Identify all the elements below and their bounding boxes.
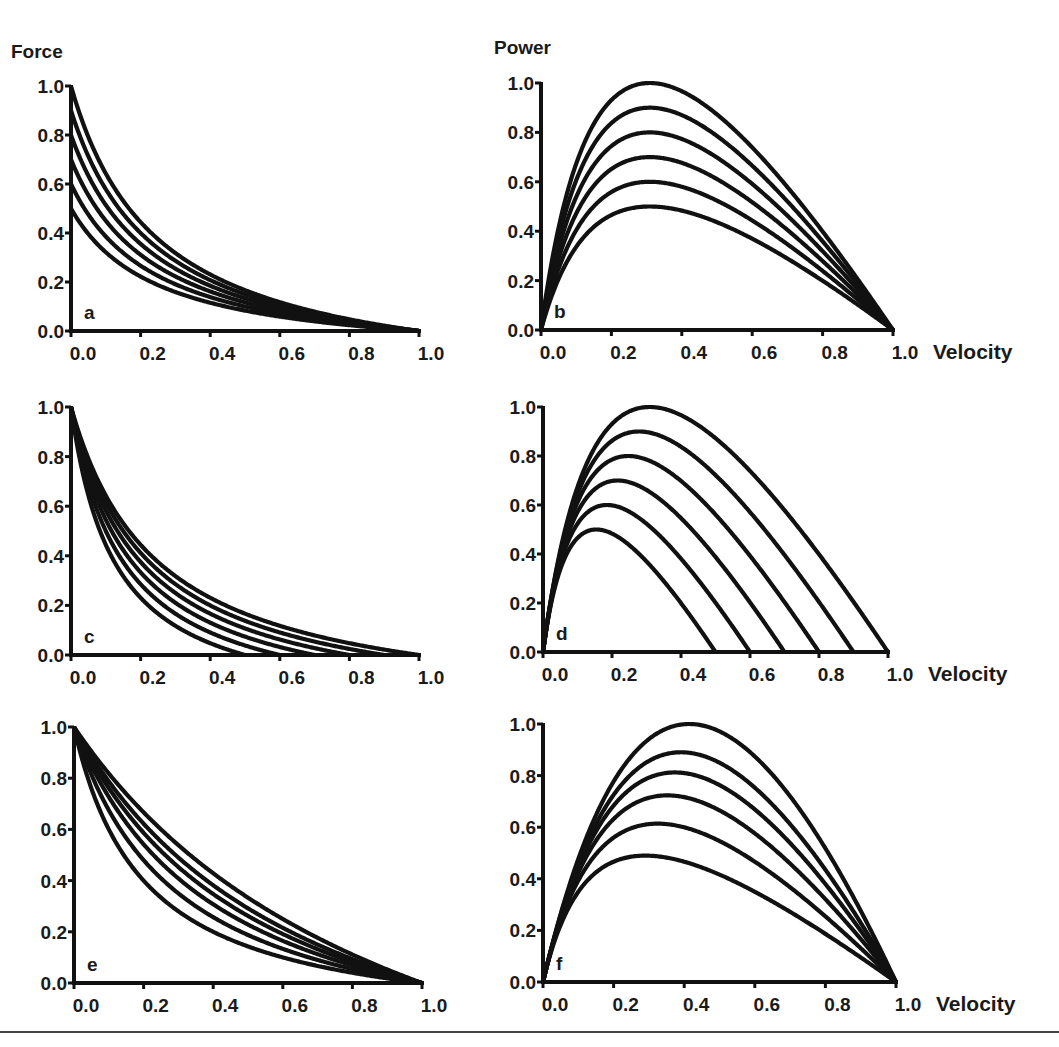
y-tick-label: 0.0 [510,972,536,993]
y-tick-label: 0.6 [38,496,64,517]
curve-vmax-0-6 [71,407,280,655]
panel-letter: a [84,302,95,323]
curve-vmax-0-8 [543,456,819,652]
x-tick-label: 0.4 [683,994,710,1015]
x-tick-label: 0.0 [542,664,568,685]
panel-letter: f [556,953,563,974]
y-tick-label: 0.8 [38,447,64,468]
y-tick-label: 1.0 [41,717,67,738]
curve-vmax-0-5 [543,530,716,653]
x-tick-label: 0.2 [611,664,637,685]
curve-k-0-2 [74,727,422,983]
y-tick-label: 0.4 [38,223,65,244]
x-tick-label: 0.0 [73,995,99,1016]
x-tick-label: 0.6 [749,664,775,685]
y-tick-label: 0.0 [41,973,67,994]
curve-f0-0-8 [541,132,893,330]
y-tick-label: 0.4 [508,221,535,242]
x-tick-label: 0.2 [612,994,638,1015]
panel-a-force-chart: 0.00.20.40.60.81.00.00.20.40.60.81.0a [38,76,445,364]
y-tick-label: 0.4 [510,544,537,565]
x-tick-label: 0.6 [279,667,305,688]
x-tick-label: 0.2 [610,342,636,363]
panel-letter: e [87,954,98,975]
x-tick-label: 1.0 [418,667,444,688]
x-tick-label: 1.0 [418,343,444,364]
x-tick-label: 0.8 [821,342,847,363]
x-tick-label: 0.4 [209,343,236,364]
y-tick-label: 0.8 [41,768,67,789]
y-tick-label: 0.6 [508,172,534,193]
y-tick-label: 0.2 [508,271,534,292]
y-tick-label: 0.0 [38,645,64,666]
y-tick-label: 0.6 [510,817,536,838]
panel-d-power-chart: 0.00.20.40.60.81.00.00.20.40.60.81.0Velo… [510,397,1008,685]
x-tick-label: 0.0 [70,343,96,364]
axes: 0.00.20.40.60.81.00.00.20.40.60.81.0a [38,76,445,364]
x-tick-label: 1.0 [887,664,913,685]
x-axis-title: Velocity [933,340,1013,363]
x-tick-label: 0.8 [824,994,850,1015]
y-tick-label: 0.6 [41,819,67,840]
x-tick-label: 0.8 [348,343,374,364]
panel-c-force-chart: 0.00.20.40.60.81.00.00.20.40.60.81.0c [38,397,445,688]
x-tick-label: 0.6 [754,994,780,1015]
power-axis-title: Power [494,37,552,58]
y-tick-label: 1.0 [38,397,64,418]
curve-f0-0-7 [541,157,893,330]
x-tick-label: 0.4 [209,667,236,688]
y-tick-label: 0.2 [510,593,536,614]
y-tick-label: 1.0 [508,73,534,94]
curve-vmax-0-6 [543,505,750,652]
curves [543,724,896,982]
x-tick-label: 1.0 [895,994,921,1015]
x-tick-label: 0.4 [212,995,239,1016]
x-tick-label: 0.8 [351,995,377,1016]
y-tick-label: 1.0 [510,714,536,735]
x-tick-label: 0.2 [139,667,165,688]
curves [71,86,419,331]
y-tick-label: 0.6 [38,174,64,195]
curves [543,407,888,652]
y-tick-label: 0.8 [508,122,534,143]
y-tick-label: 0.2 [38,272,64,293]
panel-letter: d [556,623,568,644]
y-tick-label: 0.0 [38,321,64,342]
y-tick-label: 1.0 [38,76,64,97]
y-tick-label: 0.4 [38,546,65,567]
y-tick-label: 0.2 [41,922,67,943]
caption-divider [0,1031,1059,1033]
x-tick-label: 0.6 [279,343,305,364]
curve-vmax-0-7 [543,481,785,653]
curve-k-0-3 [543,824,896,982]
force-axis-title: Force [11,41,63,62]
x-tick-label: 0.4 [680,664,707,685]
panel-letter: b [554,301,566,322]
x-tick-label: 1.0 [421,995,447,1016]
x-tick-label: 0.4 [681,342,708,363]
x-tick-label: 0.6 [282,995,308,1016]
y-tick-label: 0.2 [510,920,536,941]
y-tick-label: 0.0 [508,320,534,341]
y-tick-label: 0.4 [510,869,537,890]
y-tick-label: 0.4 [41,871,68,892]
x-tick-label: 0.2 [142,995,168,1016]
x-tick-label: 0.8 [818,664,844,685]
y-tick-label: 0.8 [510,446,536,467]
curves [71,407,419,655]
x-tick-label: 0.6 [751,342,777,363]
panel-e-force-chart: 0.00.20.40.60.81.00.00.20.40.60.81.0e [41,717,448,1016]
x-axis-title: Velocity [936,992,1016,1015]
x-tick-label: 0.2 [139,343,165,364]
x-axis-title: Velocity [928,662,1008,685]
x-tick-label: 0.0 [70,667,96,688]
y-tick-label: 0.2 [38,595,64,616]
y-tick-label: 0.8 [510,766,536,787]
x-tick-label: 0.0 [540,342,566,363]
curves [74,727,422,983]
curve-f0-0-9 [541,108,893,330]
axes: 0.00.20.40.60.81.00.00.20.40.60.81.0Velo… [510,397,1008,685]
clipped-caption [0,1036,1059,1047]
panel-letter: c [84,626,95,647]
x-tick-label: 0.0 [542,994,568,1015]
